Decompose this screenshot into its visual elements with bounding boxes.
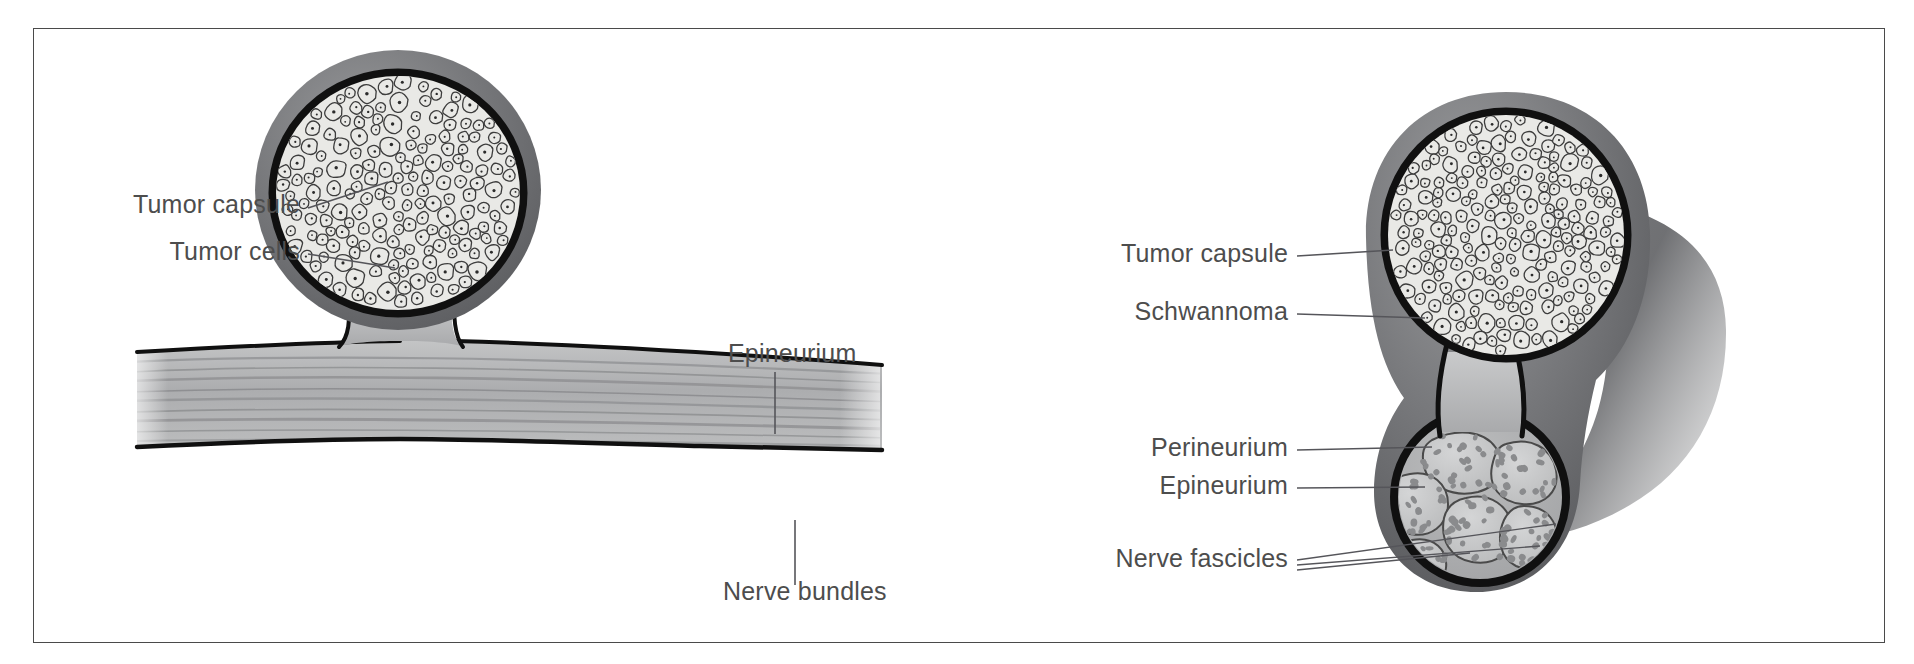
tumor-cell-nucleus: [446, 147, 448, 149]
tumor-cell-nucleus: [354, 251, 356, 253]
tumor-cell-nucleus: [367, 164, 369, 166]
tumor-cell-nucleus: [438, 245, 440, 247]
tumor-cell-nucleus: [475, 232, 477, 234]
tumor-cell-nucleus: [436, 290, 438, 292]
tumor-cell: [410, 274, 425, 289]
tumor-cell-nucleus: [1511, 232, 1513, 234]
tumor-cell-nucleus: [1479, 272, 1481, 274]
tumor-cell: [448, 285, 459, 294]
tumor-cell-nucleus: [1437, 228, 1440, 231]
tumor-cell-nucleus: [378, 193, 380, 195]
label-tumor-cells: Tumor cells: [170, 237, 300, 265]
tumor-cell-nucleus: [358, 134, 361, 137]
tumor-cell-nucleus: [460, 266, 462, 268]
tumor-cell-nucleus: [1451, 177, 1453, 179]
tumor-cell-nucleus: [497, 168, 499, 170]
tumor-cell-nucleus: [474, 136, 476, 138]
tumor-cell-nucleus: [1501, 281, 1503, 283]
tumor-cell-nucleus: [1518, 217, 1520, 219]
tumor-cell-nucleus: [1562, 282, 1564, 284]
tumor-cell: [347, 235, 358, 246]
tumor-cell-nucleus: [1616, 211, 1618, 213]
tumor-cell-nucleus: [1543, 186, 1545, 188]
tumor-cell-nucleus: [356, 186, 358, 188]
tumor-cell-nucleus: [1451, 230, 1453, 232]
label-tumor-capsule: Tumor capsule: [133, 190, 300, 218]
tumor-cell-nucleus: [483, 151, 486, 154]
tumor-cell-nucleus: [402, 270, 404, 272]
axon-dot: [1395, 564, 1401, 570]
tumor-cell-nucleus: [1580, 285, 1583, 288]
tumor-cell-nucleus: [1535, 339, 1537, 341]
tumor-cell-nucleus: [500, 148, 502, 150]
tumor-cell-nucleus: [1547, 306, 1550, 309]
tumor-cell: [1430, 154, 1440, 165]
tumor-cell-nucleus: [1466, 171, 1468, 173]
tumor-cell-nucleus: [332, 110, 335, 113]
axon-dot: [1414, 576, 1420, 585]
tumor-cell-nucleus: [316, 113, 318, 115]
tumor-cell-nucleus: [325, 278, 328, 281]
tumor-cell-nucleus: [1552, 276, 1554, 278]
tumor-cell-nucleus: [1514, 243, 1516, 245]
tumor-cell: [1497, 329, 1511, 341]
tumor-cell-nucleus: [1499, 142, 1502, 145]
tumor-cell-nucleus: [452, 289, 454, 291]
tumor-cell-nucleus: [1460, 326, 1462, 328]
tumor-cell-nucleus: [339, 143, 342, 146]
tumor-cell-nucleus: [1580, 204, 1582, 206]
tumor-cell-nucleus: [341, 231, 343, 233]
tumor-cell: [398, 281, 411, 294]
tumor-cell-nucleus: [1467, 343, 1469, 345]
tumor-cell-nucleus: [338, 289, 341, 292]
tumor-cell-nucleus: [432, 228, 434, 230]
tumor-cell-nucleus: [296, 179, 298, 181]
tumor-cell-nucleus: [515, 191, 517, 193]
tumor-cell-nucleus: [407, 188, 409, 190]
tumor-cell-nucleus: [1599, 201, 1601, 203]
tumor-cell-nucleus: [475, 270, 479, 274]
tumor-cell-nucleus: [445, 232, 447, 234]
tumor-cell-nucleus: [510, 160, 512, 162]
tumor-cell-nucleus: [1402, 231, 1404, 233]
tumor-cell-nucleus: [1442, 150, 1444, 152]
tumor-cell-nucleus: [1441, 325, 1444, 328]
tumor-cell-nucleus: [386, 291, 389, 294]
tumor-cell-nucleus: [398, 216, 400, 218]
tumor-cell-nucleus: [1455, 264, 1457, 266]
label-tumor-capsule: Tumor capsule: [1121, 239, 1288, 267]
tumor-cell-nucleus: [406, 165, 408, 167]
tumor-cell-nucleus: [1545, 126, 1548, 129]
tumor-cell-nucleus: [362, 227, 364, 229]
tumor-cell-nucleus: [1396, 214, 1398, 216]
tumor-cell-nucleus: [1497, 189, 1499, 191]
tumor-cell-nucleus: [388, 201, 390, 203]
tumor-cell-nucleus: [1586, 309, 1588, 311]
tumor-cell-nucleus: [1403, 204, 1405, 206]
tumor-cell-nucleus: [1530, 324, 1532, 326]
tumor-cell-nucleus: [429, 138, 431, 140]
tumor-cell: [341, 116, 351, 126]
tumor-cell-nucleus: [1549, 208, 1551, 210]
tumor-cell-nucleus: [1558, 213, 1560, 215]
tumor-cell-nucleus: [431, 161, 434, 164]
tumor-cell-nucleus: [1447, 299, 1449, 301]
tumor-cell-nucleus: [375, 129, 377, 131]
tumor-cell: [1564, 292, 1574, 302]
tumor-cell-nucleus: [1433, 304, 1435, 306]
tumor-cell-nucleus: [1534, 152, 1536, 154]
tumor-cell-nucleus: [1455, 338, 1457, 340]
tumor-cell: [1496, 345, 1506, 355]
tumor-cell-nucleus: [1475, 126, 1478, 129]
tumor-cell-nucleus: [1401, 189, 1403, 191]
tumor-cell-nucleus: [400, 300, 402, 302]
tumor-cell-nucleus: [1573, 310, 1575, 312]
tumor-cell: [1453, 290, 1465, 302]
tumor-cell-nucleus: [430, 277, 432, 279]
tumor-cell-nucleus: [1590, 231, 1593, 234]
tumor-cell-nucleus: [367, 111, 369, 113]
tumor-cell-nucleus: [1474, 156, 1476, 158]
tumor-cell-nucleus: [494, 215, 496, 217]
tumor-cell-nucleus: [1574, 188, 1576, 190]
tumor-cell-nucleus: [1486, 322, 1489, 325]
